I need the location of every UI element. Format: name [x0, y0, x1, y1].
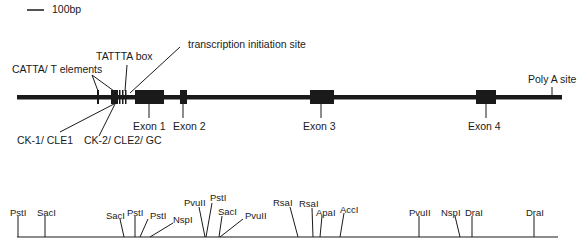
site-label-acci: AccI	[340, 205, 358, 215]
site-label-apai: ApaI	[316, 208, 336, 218]
exon-2-label: Exon 2	[173, 121, 206, 132]
site-label-nspi-2: NspI	[441, 208, 461, 218]
exon-4-box	[476, 90, 496, 104]
site-tick-rsai-1	[290, 207, 298, 237]
ck2-cle2-gc-label: CK-2/ CLE2/ GC	[84, 135, 162, 146]
catta-element-marker	[97, 90, 99, 104]
site-tick-psti-3	[140, 219, 148, 237]
exon-4-label: Exon 4	[468, 121, 501, 132]
exon-1-label: Exon 1	[133, 121, 166, 132]
tattta-box-label: TATTTA box	[96, 51, 153, 62]
transcription-initiation-site-label: transcription initiation site	[188, 39, 306, 50]
promoter-stripe-1	[119, 90, 121, 104]
site-tick-pvuii-1	[199, 207, 205, 237]
ck2-pointer	[99, 104, 115, 136]
exon-2-box	[180, 90, 187, 104]
site-label-drai-2: DraI	[526, 208, 544, 218]
poly-a-site-label: Poly A site	[528, 74, 576, 85]
promoter-stripe-3	[125, 90, 127, 104]
site-label-drai-1: DraI	[465, 208, 483, 218]
exon-1-box	[135, 90, 164, 104]
site-tick-rsai-2	[312, 208, 313, 237]
site-label-pvuii-3: PvuII	[409, 208, 431, 218]
site-label-psti-1: PstI	[10, 208, 26, 218]
catta-elements-label: CATTA/ T elements	[12, 64, 102, 75]
exon-3-label: Exon 3	[303, 121, 336, 132]
site-label-psti-4: PstI	[210, 193, 226, 203]
site-tick-nspi-2	[455, 216, 460, 237]
site-label-saci-2: SacI	[106, 211, 125, 221]
site-label-nspi-1: NspI	[173, 215, 193, 225]
site-tick-saci-3	[219, 216, 222, 237]
site-label-pvuii-1: PvuII	[184, 198, 206, 208]
site-tick-nspi-1	[150, 223, 173, 237]
site-tick-apai	[320, 216, 322, 237]
site-label-saci-1: SacI	[37, 208, 56, 218]
site-label-saci-3: SacI	[218, 207, 237, 217]
site-tick-psti-4	[206, 203, 212, 237]
site-label-psti-2: PstI	[127, 208, 143, 218]
exon-3-box	[310, 90, 334, 104]
site-label-psti-3: PstI	[150, 211, 166, 221]
tattta-pointer	[125, 65, 127, 91]
site-tick-pvuii-2	[220, 219, 243, 237]
ck1-cle1-label: CK-1/ CLE1	[17, 135, 73, 146]
site-label-rsai-1: RsaI	[273, 198, 293, 208]
site-label-pvuii-2: PvuII	[245, 211, 267, 221]
scale-bar-label: 100bp	[52, 4, 81, 15]
ck1-pointer	[60, 104, 114, 132]
site-tick-saci-2	[120, 219, 124, 237]
promoter-stripe-2	[122, 90, 124, 104]
ck-cle-block	[111, 90, 118, 104]
site-tick-acci	[340, 213, 344, 237]
